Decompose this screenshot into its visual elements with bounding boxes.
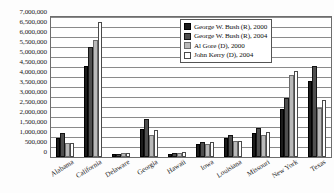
x-axis-tick-label: California bbox=[75, 158, 104, 180]
bar-group bbox=[51, 17, 79, 157]
legend-swatch-icon bbox=[184, 42, 191, 49]
x-axis: AlabamaCaliforniaDelawareGeorgiaHawaiiIo… bbox=[50, 158, 332, 193]
legend-item[interactable]: George W. Bush (R), 2004 bbox=[184, 32, 267, 41]
y-axis-tick-label: 6,500,000 bbox=[20, 19, 47, 27]
legend-item[interactable]: John Kerry (D), 2004 bbox=[184, 51, 267, 60]
bar[interactable] bbox=[210, 142, 215, 157]
y-axis-tick-label: 1,000,000 bbox=[20, 129, 47, 137]
y-axis-tick-label: 4,500,000 bbox=[20, 59, 47, 67]
x-axis-tick-label: Louisiana bbox=[215, 158, 243, 180]
y-axis-tick-label: 0 bbox=[44, 149, 47, 157]
y-axis-tick-label: 3,500,000 bbox=[20, 79, 47, 87]
y-axis-tick-label: 4,000,000 bbox=[20, 69, 47, 77]
bar-group bbox=[275, 17, 303, 157]
bar[interactable] bbox=[294, 71, 299, 157]
x-axis-tick-label: Georgia bbox=[136, 158, 160, 177]
legend-swatch-icon bbox=[184, 33, 191, 40]
bar[interactable] bbox=[266, 132, 271, 157]
x-axis-tick-label: Hawaii bbox=[166, 158, 188, 176]
x-axis-tick-label: Texas bbox=[309, 158, 327, 174]
x-axis-tick-label: Delaware bbox=[104, 158, 131, 179]
legend-swatch-icon bbox=[184, 23, 191, 30]
bar[interactable] bbox=[98, 22, 103, 157]
bar-group bbox=[79, 17, 107, 157]
legend-item[interactable]: Al Gore (D), 2000 bbox=[184, 41, 267, 50]
legend-item-label: George W. Bush (R), 2004 bbox=[194, 32, 267, 40]
bar[interactable] bbox=[154, 130, 159, 157]
legend-item-label: Al Gore (D), 2000 bbox=[194, 42, 245, 50]
legend-item-label: John Kerry (D), 2004 bbox=[194, 51, 253, 59]
y-axis-tick-label: 7,000,000 bbox=[20, 9, 47, 17]
bar[interactable] bbox=[238, 141, 243, 157]
x-axis-tick-label: Alabama bbox=[49, 158, 75, 178]
legend-item-label: George W. Bush (R), 2000 bbox=[194, 23, 267, 31]
bar-group bbox=[135, 17, 163, 157]
chart-legend: George W. Bush (R), 2000George W. Bush (… bbox=[180, 19, 272, 63]
bar-group bbox=[107, 17, 135, 157]
y-axis-tick-label: 1,500,000 bbox=[20, 119, 47, 127]
legend-swatch-icon bbox=[184, 52, 191, 59]
y-axis-tick-label: 500,000 bbox=[25, 139, 47, 147]
x-axis-tick-label: Iowa bbox=[199, 158, 215, 172]
y-axis-tick-label: 6,000,000 bbox=[20, 29, 47, 37]
y-axis-tick-label: 2,500,000 bbox=[20, 99, 47, 107]
x-axis-tick-label: Missouri bbox=[246, 158, 272, 178]
bar-chart: 7,000,0006,500,0006,000,0005,500,0005,00… bbox=[0, 0, 334, 193]
bar[interactable] bbox=[70, 143, 75, 157]
y-axis-tick-label: 3,000,000 bbox=[20, 89, 47, 97]
bar[interactable] bbox=[322, 100, 327, 157]
bar[interactable] bbox=[182, 152, 187, 157]
bar[interactable] bbox=[126, 153, 131, 157]
y-axis: 7,000,0006,500,0006,000,0005,500,0005,00… bbox=[0, 13, 49, 158]
legend-item[interactable]: George W. Bush (R), 2000 bbox=[184, 22, 267, 31]
y-axis-tick-label: 5,000,000 bbox=[20, 49, 47, 57]
bar-group bbox=[303, 17, 331, 157]
x-axis-tick-label: New York bbox=[271, 158, 300, 180]
y-axis-tick-label: 5,500,000 bbox=[20, 39, 47, 47]
y-axis-tick-label: 2,000,000 bbox=[20, 109, 47, 117]
